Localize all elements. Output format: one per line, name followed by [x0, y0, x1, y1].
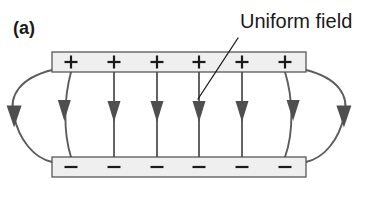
panel-label: (a): [13, 18, 35, 38]
arrow-head-6: [287, 100, 300, 121]
arrow-head-1: [58, 100, 71, 121]
parallel-plate-field-diagram: (a) Uniform field: [0, 0, 369, 198]
bottom-plate-body: [52, 157, 306, 177]
fringe-field-line-right: [306, 70, 345, 162]
arrow-head-4: [193, 101, 206, 122]
field-lines-group: [7, 70, 352, 162]
arrow-head-fringe-left: [7, 106, 22, 128]
arrow-head-fringe-right: [336, 106, 351, 128]
uniform-field-annotation-label: Uniform field: [240, 10, 352, 32]
top-plate-body: [52, 52, 306, 72]
arrow-head-3: [151, 101, 164, 122]
figure-container: (a) Uniform field: [0, 0, 369, 198]
arrow-head-2: [108, 101, 121, 122]
bottom-plate: [52, 157, 306, 177]
top-plate: [52, 52, 306, 72]
field-line-6: [285, 72, 291, 157]
fringe-field-line-left: [13, 70, 52, 162]
arrow-head-5: [236, 101, 249, 122]
